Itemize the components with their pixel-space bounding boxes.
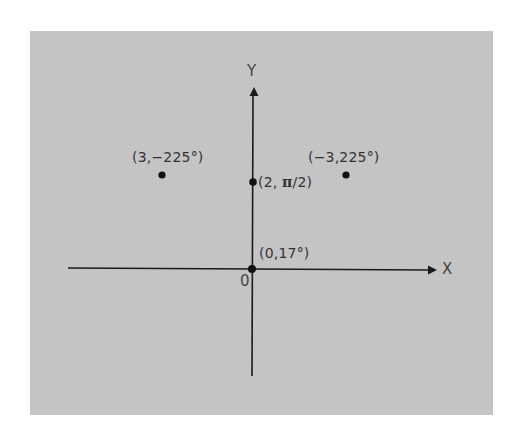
polar-points-diagram	[0, 0, 527, 434]
point-label-0-17: (0,17°)	[259, 246, 310, 260]
point-label-2-pi-over-2: (2, π/2)	[258, 175, 312, 189]
y-axis-label: Y	[247, 64, 256, 79]
point-2-pi-over-2	[249, 178, 257, 186]
origin-label: 0	[240, 274, 250, 289]
x-axis-label: X	[442, 262, 452, 277]
point-neg3-225	[342, 171, 349, 178]
y-axis-arrowhead-icon	[250, 87, 259, 96]
point-label-3-neg225: (3,−225°)	[132, 150, 204, 164]
point-label-prefix: (2,	[258, 174, 282, 190]
pi-symbol: π	[282, 174, 292, 190]
y-axis	[252, 96, 253, 376]
point-label-suffix: /2)	[293, 174, 313, 190]
point-3-neg225	[158, 171, 165, 178]
point-label-neg3-225: (−3,225°)	[308, 150, 380, 164]
x-axis-arrowhead-icon	[428, 266, 437, 275]
